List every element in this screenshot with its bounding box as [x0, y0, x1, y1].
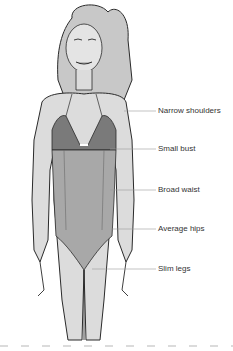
label-broad-waist: Broad waist — [158, 185, 200, 195]
label-small-bust: Small bust — [158, 144, 195, 154]
label-average-hips: Average hips — [158, 224, 205, 234]
label-narrow-shoulders: Narrow shoulders — [158, 106, 221, 116]
label-slim-legs: Slim legs — [158, 264, 190, 274]
body-shape-illustration — [0, 0, 233, 351]
face — [66, 24, 102, 72]
dashed-divider — [0, 345, 233, 347]
